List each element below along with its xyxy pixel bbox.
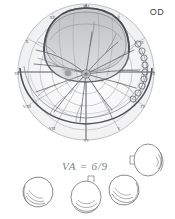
eye-laterality-label: OD xyxy=(150,7,165,17)
clock-label-XI: XI xyxy=(49,15,54,20)
clock-label-II: II xyxy=(140,40,144,45)
clock-label-V: V xyxy=(117,126,121,131)
fundus-chart-page: XII I II III IV V VI VII VIII IX X XI OD… xyxy=(0,0,175,219)
clock-label-VIII: VIII xyxy=(23,104,32,109)
clock-label-IV: IV xyxy=(140,104,146,109)
optic-disc xyxy=(82,70,90,78)
clock-label-X: X xyxy=(25,39,29,44)
clock-label-VI: VI xyxy=(83,138,88,143)
macula xyxy=(59,64,77,82)
clock-label-XII: XII xyxy=(83,4,90,9)
visual-acuity-note: VA = 6/9 xyxy=(62,160,108,172)
clock-label-VII: VII xyxy=(49,126,56,131)
clock-label-III: III xyxy=(151,71,156,76)
clock-label-IX: IX xyxy=(14,71,20,76)
